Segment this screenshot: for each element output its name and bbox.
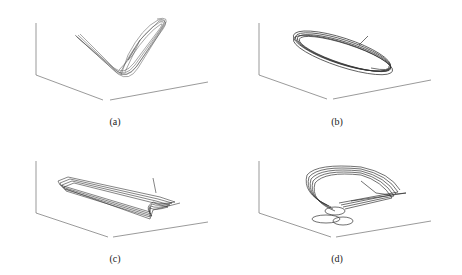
panel-d: (d) <box>231 137 462 274</box>
panel-c: (c) <box>0 137 231 274</box>
panel-a: (a) <box>0 0 231 137</box>
caption-a: (a) <box>95 116 135 127</box>
caption-b: (b) <box>317 116 357 127</box>
panel-b: (b) <box>231 0 462 137</box>
caption-c: (c) <box>95 253 135 264</box>
caption-d: (d) <box>317 253 357 264</box>
